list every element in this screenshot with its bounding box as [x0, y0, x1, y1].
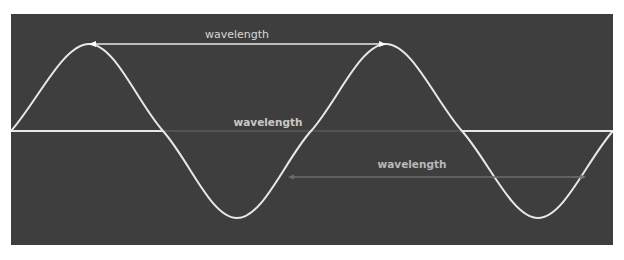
arrowhead-right-icon — [379, 41, 386, 47]
wave-diagram: wavelength wavelength wavelength — [0, 0, 624, 260]
top-wavelength-label: wavelength — [205, 28, 269, 41]
arrowhead-left-icon — [89, 41, 96, 47]
bottom-wavelength-label: wavelength — [378, 158, 447, 170]
middle-wavelength-label: wavelength — [234, 116, 303, 128]
arrowhead-bottom-left-icon — [288, 175, 294, 180]
